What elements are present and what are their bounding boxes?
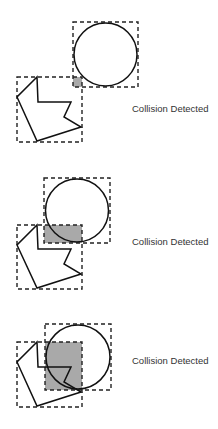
polygon-shape — [17, 77, 81, 141]
overlap-region — [45, 342, 82, 390]
overlap-region — [73, 77, 82, 87]
panel-3 — [17, 324, 111, 407]
overlap-region — [44, 225, 82, 243]
circle-shape — [74, 23, 137, 86]
panel-2 — [17, 178, 110, 289]
panel-1 — [17, 22, 138, 142]
collision-status-label-1: Collision Detected — [132, 103, 209, 114]
collision-status-label-3: Collision Detected — [132, 355, 209, 366]
collision-status-label-2: Collision Detected — [132, 236, 209, 247]
